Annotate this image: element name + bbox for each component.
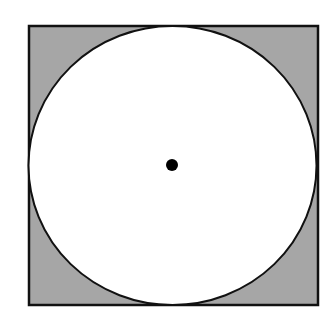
center-point [166,159,178,171]
inscribed-circle-diagram [0,0,334,323]
